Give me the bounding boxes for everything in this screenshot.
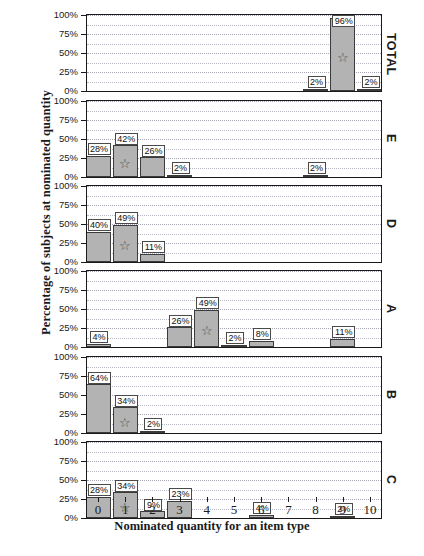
x-tick-label: 3 bbox=[168, 502, 192, 518]
gridline bbox=[87, 111, 381, 112]
x-tick-label: 7 bbox=[276, 502, 300, 518]
gridline bbox=[87, 205, 381, 206]
bar[interactable] bbox=[87, 344, 111, 347]
x-axis: 012345678910 bbox=[86, 497, 382, 521]
gridline bbox=[87, 386, 381, 387]
bar[interactable] bbox=[140, 254, 165, 262]
y-tick-mark bbox=[81, 158, 86, 159]
panel-label-b: B bbox=[384, 390, 398, 399]
bar-value-label: 2% bbox=[226, 332, 244, 344]
bar[interactable] bbox=[221, 345, 246, 347]
y-tick-mark bbox=[81, 224, 86, 225]
bar-value-label: 49% bbox=[115, 212, 138, 224]
bar-value-label: 11% bbox=[142, 241, 165, 253]
y-tick-mark bbox=[81, 347, 86, 348]
y-tick-mark bbox=[81, 101, 86, 102]
bar-value-label: 8% bbox=[253, 328, 271, 340]
y-tick-label: 50% bbox=[34, 219, 78, 229]
y-tick-mark bbox=[81, 357, 86, 358]
gridline bbox=[87, 196, 381, 197]
gridline bbox=[87, 101, 381, 102]
y-tick-mark bbox=[81, 72, 86, 73]
bar[interactable] bbox=[167, 327, 192, 347]
gridline bbox=[87, 290, 381, 291]
y-tick-mark bbox=[81, 480, 86, 481]
y-tick-mark bbox=[81, 15, 86, 16]
y-tick-mark bbox=[81, 271, 86, 272]
plot-area: 2%96%2%☆ bbox=[87, 15, 381, 91]
bar-value-label: 28% bbox=[88, 484, 111, 496]
y-tick-label: 75% bbox=[34, 456, 78, 466]
bar-value-label: 64% bbox=[88, 372, 111, 384]
y-tick-label: 75% bbox=[34, 371, 78, 381]
bar[interactable] bbox=[303, 89, 328, 91]
gridline bbox=[87, 452, 381, 453]
y-tick-mark bbox=[81, 186, 86, 187]
y-tick-mark bbox=[81, 328, 86, 329]
bar[interactable] bbox=[167, 175, 192, 177]
y-tick-mark bbox=[81, 309, 86, 310]
y-tick-label: 100% bbox=[34, 10, 78, 20]
bar-value-label: 2% bbox=[362, 76, 380, 88]
y-tick-label: 100% bbox=[34, 266, 78, 276]
y-tick-label: 25% bbox=[34, 67, 78, 77]
y-tick-label: 75% bbox=[34, 200, 78, 210]
gridline bbox=[87, 367, 381, 368]
bar[interactable] bbox=[140, 431, 165, 433]
y-axis-title: Percentage of subjects at nominated quan… bbox=[39, 63, 54, 363]
bar[interactable] bbox=[140, 157, 165, 177]
y-tick-mark bbox=[81, 243, 86, 244]
bar-value-label: 2% bbox=[144, 418, 162, 430]
gridline bbox=[87, 442, 381, 443]
panel-label-c: C bbox=[384, 475, 398, 484]
panel-label-d: D bbox=[384, 219, 398, 228]
y-tick-mark bbox=[81, 139, 86, 140]
figure-caption bbox=[10, 541, 414, 555]
gridline bbox=[87, 186, 381, 187]
x-tick-label: 10 bbox=[358, 502, 382, 518]
bar[interactable] bbox=[87, 384, 111, 433]
plot-area: 28%42%26%2%2%☆ bbox=[87, 101, 381, 177]
panel-a: 4%26%49%2%8%11%☆ bbox=[86, 270, 382, 348]
bar[interactable] bbox=[87, 232, 111, 262]
y-tick-mark bbox=[81, 290, 86, 291]
star-marker-icon: ☆ bbox=[116, 239, 134, 252]
star-marker-icon: ☆ bbox=[116, 416, 134, 429]
gridline bbox=[87, 309, 381, 310]
y-tick-label: 25% bbox=[34, 153, 78, 163]
y-tick-mark bbox=[81, 262, 86, 263]
y-tick-mark bbox=[81, 433, 86, 434]
bar-value-label: 2% bbox=[308, 76, 326, 88]
bar-value-label: 28% bbox=[88, 143, 111, 155]
x-tick-label: 9 bbox=[331, 502, 355, 518]
chart-figure: Percentage of subjects at nominated quan… bbox=[0, 0, 424, 556]
bar-value-label: 49% bbox=[196, 297, 219, 309]
y-tick-label: 75% bbox=[34, 29, 78, 39]
bar[interactable] bbox=[87, 156, 111, 177]
bar[interactable] bbox=[357, 89, 381, 91]
y-tick-mark bbox=[81, 34, 86, 35]
y-tick-label: 75% bbox=[34, 285, 78, 295]
x-tick-label: 1 bbox=[113, 502, 137, 518]
bar-value-label: 11% bbox=[332, 326, 355, 338]
bar[interactable] bbox=[330, 339, 355, 347]
bar-value-label: 34% bbox=[115, 480, 138, 492]
y-tick-mark bbox=[81, 205, 86, 206]
star-marker-icon: ☆ bbox=[198, 324, 216, 337]
y-tick-mark bbox=[81, 414, 86, 415]
panel-label-total: TOTAL bbox=[384, 33, 398, 76]
gridline bbox=[87, 461, 381, 462]
gridline bbox=[87, 357, 381, 358]
y-tick-label: 100% bbox=[34, 352, 78, 362]
x-tick-label: 0 bbox=[86, 502, 110, 518]
panel-total: 2%96%2%☆ bbox=[86, 14, 382, 92]
bar[interactable] bbox=[249, 341, 274, 347]
bar-value-label: 2% bbox=[308, 162, 326, 174]
star-marker-icon: ☆ bbox=[116, 157, 134, 170]
bar[interactable] bbox=[303, 175, 328, 177]
x-tick-label: 5 bbox=[222, 502, 246, 518]
gridline bbox=[87, 130, 381, 131]
y-tick-label: 50% bbox=[34, 390, 78, 400]
y-tick-mark bbox=[81, 395, 86, 396]
panel-label-e: E bbox=[384, 134, 398, 143]
